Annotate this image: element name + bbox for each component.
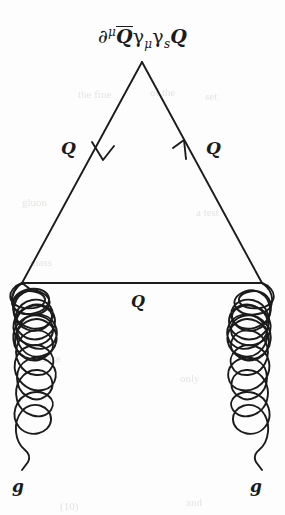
gluon-label-right: g xyxy=(250,478,262,495)
partial-derivative-symbol: ∂ xyxy=(98,25,108,47)
gamma-two-symbol: γ xyxy=(152,25,164,47)
derivative-index: μ xyxy=(108,25,116,39)
q-bar-symbol: Q xyxy=(116,26,133,47)
quark-label-left: Q xyxy=(61,140,76,157)
feynman-diagram-figure: the fine of the set gluon a test mass on… xyxy=(0,0,285,515)
q-symbol: Q xyxy=(170,25,187,47)
quark-label-right: Q xyxy=(206,140,221,157)
arrow-left-icon xyxy=(92,142,114,160)
fermion-line-right xyxy=(142,62,262,283)
fermion-line-left xyxy=(22,62,142,283)
arrow-right-icon xyxy=(173,140,186,159)
quark-label-middle: Q xyxy=(131,294,145,310)
operator-label: ∂μQγμγsQ xyxy=(0,26,285,50)
gluon-label-left: g xyxy=(12,478,24,495)
gamma-one-symbol: γ xyxy=(133,25,145,47)
diagram-canvas xyxy=(0,0,285,515)
